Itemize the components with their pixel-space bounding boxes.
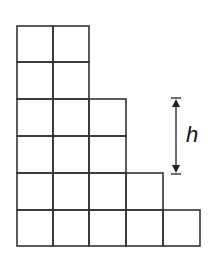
unit-square (17, 62, 53, 99)
unit-square (17, 173, 53, 210)
unit-square (126, 173, 163, 210)
unit-square (126, 210, 163, 246)
unit-square (53, 173, 89, 210)
unit-square (163, 210, 200, 246)
unit-square (53, 210, 89, 246)
unit-square (89, 99, 126, 136)
staircase-grid (0, 0, 213, 258)
unit-square (17, 26, 53, 62)
height-dimension-arrow (171, 98, 181, 174)
unit-square (89, 136, 126, 173)
unit-square (89, 210, 126, 246)
unit-square (53, 136, 89, 173)
unit-square (53, 62, 89, 99)
grid-squares (17, 26, 200, 246)
unit-square (53, 26, 89, 62)
arrow-down-head-icon (172, 165, 180, 173)
unit-square (17, 136, 53, 173)
unit-square (53, 99, 89, 136)
arrow-up-head-icon (172, 99, 180, 107)
unit-square (17, 210, 53, 246)
unit-square (89, 173, 126, 210)
height-label: h (186, 124, 198, 146)
unit-square (17, 99, 53, 136)
